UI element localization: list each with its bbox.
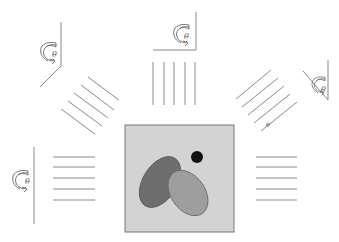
theta-label-top: θ: [184, 32, 189, 41]
ray-label: θ: [266, 121, 270, 128]
theta-label-top-right: θ: [321, 85, 326, 94]
reference-line-top-left: [40, 66, 61, 87]
theta-label-left: θ: [25, 177, 30, 186]
theta-label-top-left: θ: [52, 50, 57, 59]
projection-top-left: [40, 22, 119, 134]
black-dot: [191, 151, 203, 163]
projection-top: [153, 12, 196, 105]
projection-diagram: θ θ θ θ θ: [0, 0, 339, 242]
object-square-group: [125, 125, 234, 232]
projection-right: [256, 157, 297, 200]
projection-top-right: [236, 60, 328, 131]
projection-left: [34, 147, 95, 224]
